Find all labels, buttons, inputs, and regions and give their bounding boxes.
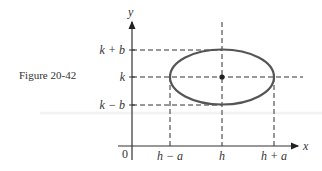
y-tick-k-plus-b: k + b <box>100 43 125 57</box>
x-tick-h-minus-a: h − a <box>157 149 183 163</box>
center-point <box>219 74 224 79</box>
y-tick-k-minus-b: k − b <box>100 98 125 112</box>
x-tick-h-plus-a: h + a <box>261 149 287 163</box>
x-axis-label: x <box>302 139 309 153</box>
x-tick-h: h <box>219 149 225 163</box>
y-axis-label: y <box>127 5 134 19</box>
y-tick-k: k <box>120 70 126 84</box>
origin-label: 0 <box>122 147 128 161</box>
ellipse-diagram: y x 0 k + b k k − b h − a h h + a <box>0 0 322 171</box>
guide-lines <box>132 22 303 146</box>
